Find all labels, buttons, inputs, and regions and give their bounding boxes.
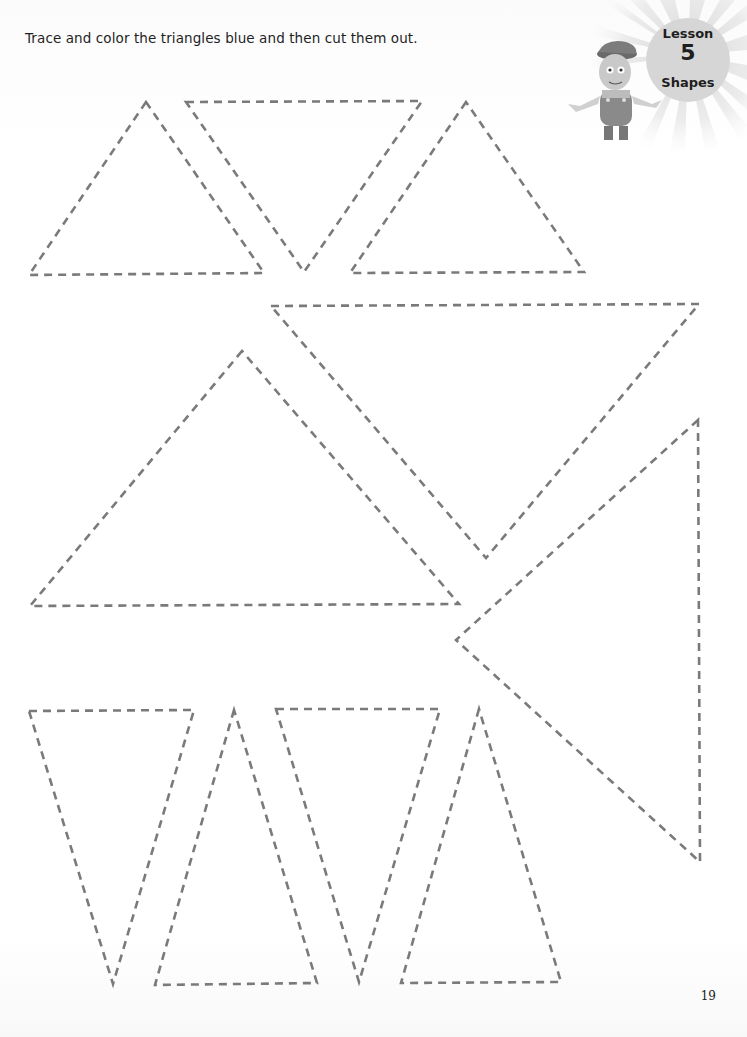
- traceable-triangle[interactable]: [350, 102, 584, 273]
- traceable-triangle[interactable]: [271, 304, 699, 558]
- traceable-triangle[interactable]: [186, 101, 422, 272]
- page-number: 19: [701, 989, 716, 1003]
- traceable-triangle[interactable]: [30, 351, 459, 606]
- traceable-triangle[interactable]: [456, 420, 700, 862]
- triangle-tracing-area: [0, 0, 747, 1037]
- traceable-triangle[interactable]: [29, 102, 264, 275]
- traceable-triangle[interactable]: [155, 710, 317, 985]
- traceable-triangle[interactable]: [276, 709, 440, 982]
- traceable-triangle[interactable]: [29, 710, 194, 984]
- traceable-triangle[interactable]: [401, 709, 561, 983]
